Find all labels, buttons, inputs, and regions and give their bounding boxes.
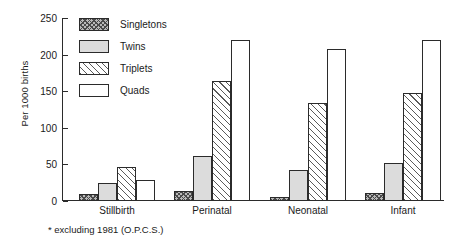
footnote: * excluding 1981 (O.P.C.S.) (48, 224, 163, 235)
legend-label: Quads (120, 85, 149, 96)
bar (212, 81, 231, 201)
x-axis-label: Neonatal (288, 205, 328, 216)
legend-swatch (79, 18, 109, 31)
x-axis-label: Perinatal (192, 205, 231, 216)
legend-item: Twins (79, 36, 167, 57)
chart-legend: SingletonsTwinsTripletsQuads (79, 14, 167, 102)
y-tick-label: 150 (40, 86, 57, 97)
bar (289, 170, 308, 201)
legend-label: Twins (120, 41, 146, 52)
bar (174, 191, 193, 201)
y-tick-label: 50 (46, 159, 57, 170)
x-axis-label: Infant (390, 205, 415, 216)
bar (365, 193, 384, 201)
y-tick-label: 0 (51, 196, 57, 207)
bar (403, 93, 422, 201)
bar (98, 183, 117, 201)
bar (117, 167, 136, 201)
bar (136, 180, 155, 201)
legend-item: Triplets (79, 58, 167, 79)
y-tick-mark (63, 164, 68, 165)
legend-label: Triplets (120, 63, 152, 74)
x-axis-label: Stillbirth (99, 205, 135, 216)
bar (308, 103, 327, 201)
legend-swatch (79, 40, 109, 53)
bar-chart: Per 1000 births 050100150200250 Stillbir… (0, 0, 456, 242)
legend-swatch (79, 84, 109, 97)
y-tick-mark (63, 201, 68, 202)
legend-label: Singletons (120, 19, 167, 30)
legend-swatch (79, 62, 109, 75)
bar-group (270, 18, 346, 201)
legend-item: Quads (79, 80, 167, 101)
y-tick-mark (63, 55, 68, 56)
bar (270, 197, 289, 201)
bar (422, 40, 441, 201)
y-axis-line (62, 18, 63, 201)
y-tick-mark (63, 18, 68, 19)
legend-item: Singletons (79, 14, 167, 35)
y-axis-title: Per 1000 births (19, 34, 30, 154)
bar-group (174, 18, 250, 201)
y-tick-label: 250 (40, 13, 57, 24)
y-tick-mark (63, 128, 68, 129)
y-tick-label: 200 (40, 49, 57, 60)
bar (327, 49, 346, 201)
y-tick-label: 100 (40, 122, 57, 133)
bar (193, 156, 212, 201)
y-tick-mark (63, 91, 68, 92)
bar-group (365, 18, 441, 201)
bar (79, 194, 98, 201)
bar (231, 40, 250, 201)
bar (384, 163, 403, 201)
